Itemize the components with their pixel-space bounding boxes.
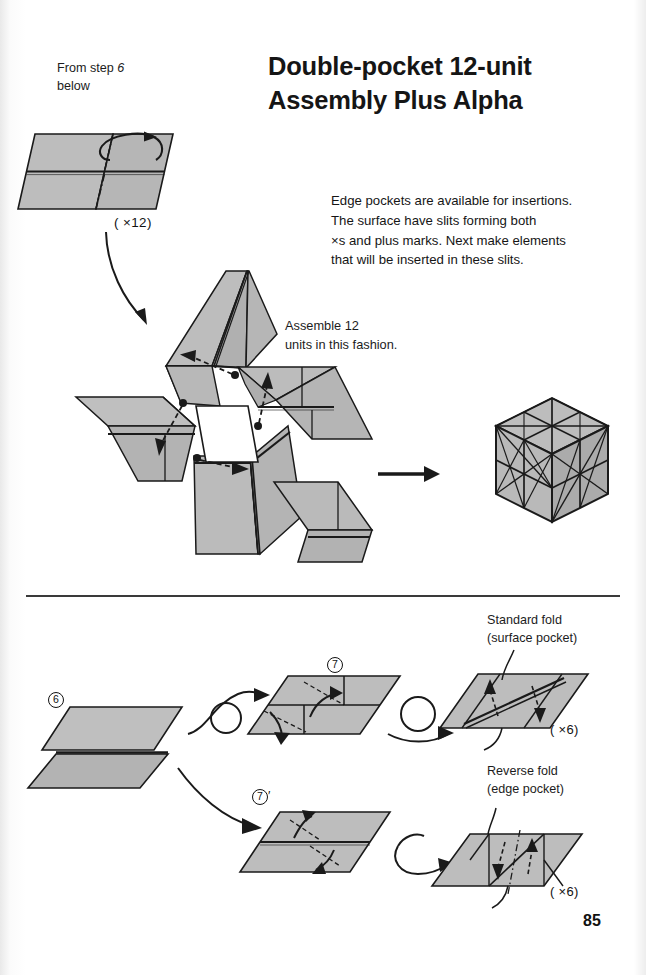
page-title-line-2: Assembly Plus Alpha bbox=[268, 84, 628, 118]
description-line-1: Edge pockets are available for insertion… bbox=[331, 191, 631, 211]
step-7-prime-mark: ′ bbox=[268, 789, 270, 803]
single-unit-diagram bbox=[18, 112, 218, 232]
page-title-line-1: Double-pocket 12-unit bbox=[268, 50, 628, 84]
rev-label-pointer-bottom bbox=[492, 886, 508, 908]
from-step-label: From step 6 below bbox=[57, 60, 217, 96]
description-line-3: ×s and plus marks. Next make elements bbox=[331, 231, 631, 251]
reverse-fold-label: Reverse fold (edge pocket) bbox=[487, 763, 646, 799]
step6-lower-flap bbox=[28, 754, 168, 788]
result-arrow bbox=[378, 462, 448, 488]
assembly-unit-left bbox=[76, 397, 195, 481]
standard-fold-line-1: Standard fold bbox=[487, 612, 646, 630]
unit-left-upper bbox=[76, 397, 195, 426]
description-paragraph: Edge pockets are available for insertion… bbox=[331, 191, 631, 270]
assembly-core-opening bbox=[196, 406, 258, 462]
step6-upper-flap bbox=[42, 707, 182, 750]
unit-bottom-tail-lower bbox=[298, 530, 372, 562]
step-7-prime-number: 7′ bbox=[252, 789, 270, 805]
reverse-fold-line-1: Reverse fold bbox=[487, 763, 646, 781]
standard-fold-line-2: (surface pocket) bbox=[487, 630, 646, 648]
rev-label-pointer-top bbox=[488, 808, 496, 834]
unit-top-lower-flap bbox=[166, 366, 220, 406]
straight-arrow-icon bbox=[378, 466, 440, 482]
reverse-fold-multiplier: ( ×6) bbox=[550, 884, 579, 899]
standard-fold-label: Standard fold (surface pocket) bbox=[487, 612, 646, 648]
from-step-below: below bbox=[57, 79, 90, 93]
unit-top-right-face bbox=[246, 271, 277, 368]
std-label-pointer-bottom bbox=[484, 728, 502, 750]
page-canvas: Double-pocket 12-unit Assembly Plus Alph… bbox=[0, 0, 646, 975]
reverse-fold-line-2: (edge pocket) bbox=[487, 781, 646, 799]
page-title: Double-pocket 12-unit Assembly Plus Alph… bbox=[268, 50, 628, 117]
step-7-prime-diagram bbox=[238, 806, 418, 888]
standard-fold-multiplier: ( ×6) bbox=[550, 722, 579, 737]
finished-cube-diagram bbox=[448, 388, 616, 538]
page-number: 85 bbox=[583, 912, 601, 930]
description-line-2: The surface have slits forming both bbox=[331, 211, 631, 231]
from-step-text: From step bbox=[57, 61, 114, 75]
from-step-number: 6 bbox=[117, 61, 124, 75]
step-7-number: 7 bbox=[327, 657, 343, 673]
assembly-diagram bbox=[62, 266, 392, 566]
section-divider bbox=[26, 595, 620, 597]
rev-result-paper bbox=[432, 834, 582, 886]
unit-bottom-left-face bbox=[194, 456, 258, 554]
